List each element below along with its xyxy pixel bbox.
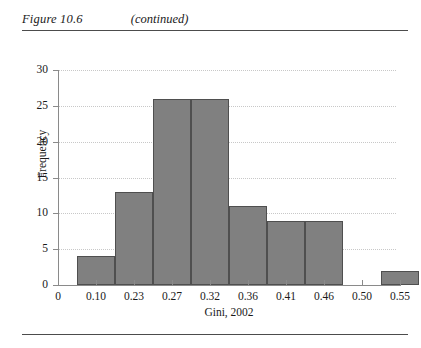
x-tick-0-50 (362, 280, 363, 286)
x-tick-label-0-36: 0.36 (228, 290, 268, 302)
bar-0-46 (305, 221, 343, 286)
bar-0-32 (191, 99, 229, 285)
figure-rule-bottom (22, 334, 408, 335)
x-tick-0-10 (96, 280, 97, 286)
plot-area (58, 70, 400, 285)
y-tick-20 (53, 142, 59, 143)
x-tick-label-0-27: 0.27 (152, 290, 192, 302)
x-tick-label-0-10: 0.10 (76, 290, 116, 302)
y-tick-label-25: 25 (18, 100, 48, 112)
y-tick-label-0: 0 (18, 279, 48, 291)
bar-0-36 (229, 206, 267, 285)
x-tick-label-0-46: 0.46 (304, 290, 344, 302)
x-tick-label-0-55: 0.55 (380, 290, 420, 302)
gridline-30 (58, 70, 396, 71)
y-tick-10 (53, 213, 59, 214)
x-tick-label-0-32: 0.32 (190, 290, 230, 302)
x-tick-0-23 (134, 280, 135, 286)
y-tick-label-10: 10 (18, 207, 48, 219)
x-axis-label: Gini, 2002 (58, 306, 400, 318)
x-tick-0-46 (324, 280, 325, 286)
bar-0-41 (267, 221, 305, 286)
y-tick-25 (53, 106, 59, 107)
x-tick-0 (58, 280, 59, 286)
x-tick-0-41 (286, 280, 287, 286)
y-tick-label-5: 5 (18, 243, 48, 255)
x-tick-label-0-50: 0.50 (342, 290, 382, 302)
y-axis-label: Frequency (36, 118, 48, 190)
y-tick-label-30: 30 (18, 64, 48, 76)
x-tick-0-36 (248, 280, 249, 286)
y-tick-15 (53, 178, 59, 179)
x-tick-label-0-41: 0.41 (266, 290, 306, 302)
x-tick-label-0-23: 0.23 (114, 290, 154, 302)
x-axis-line (58, 285, 400, 286)
histogram-chart: 0 5 10 15 20 25 30 0 0.10 0.23 0.27 0.32… (0, 0, 421, 348)
x-tick-0-32 (210, 280, 211, 286)
y-tick-5 (53, 249, 59, 250)
bar-0-27 (153, 99, 191, 285)
x-tick-label-0: 0 (38, 290, 78, 302)
y-tick-30 (53, 70, 59, 71)
x-tick-0-55 (400, 280, 401, 286)
bar-0-23 (115, 192, 153, 285)
x-tick-0-27 (172, 280, 173, 286)
